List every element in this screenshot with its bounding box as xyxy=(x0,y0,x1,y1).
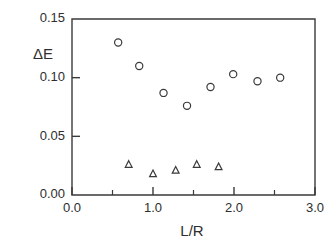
data-point-triangle xyxy=(172,167,179,174)
y-tick-label: 0.05 xyxy=(40,128,65,143)
data-point-circle xyxy=(277,74,284,81)
data-point-circle xyxy=(183,102,190,109)
x-tick-label: 1.0 xyxy=(144,200,162,215)
y-tick-label: 0.00 xyxy=(40,186,65,201)
data-point-triangle xyxy=(215,163,222,170)
y-tick-label: 0.10 xyxy=(40,69,65,84)
data-point-circle xyxy=(230,71,237,78)
y-tick-label: 0.15 xyxy=(40,10,65,25)
series-triangles xyxy=(125,161,222,177)
data-point-circle xyxy=(160,89,167,96)
y-axis-title: ΔE xyxy=(33,45,53,62)
x-tick-label: 0.0 xyxy=(63,200,81,215)
x-axis-title: L/R xyxy=(180,222,204,239)
data-point-triangle xyxy=(193,161,200,168)
plot-axes xyxy=(72,19,315,195)
x-tick-label: 3.0 xyxy=(306,200,324,215)
data-point-circle xyxy=(254,78,261,85)
axis-ticks xyxy=(72,78,315,195)
data-point-circle xyxy=(207,83,214,90)
data-point-triangle xyxy=(150,170,157,177)
scatter-plot: 0.01.02.03.00.000.050.100.15 ΔE L/R xyxy=(0,0,336,243)
figure-container: 0.01.02.03.00.000.050.100.15 ΔE L/R xyxy=(0,0,336,243)
series-circles xyxy=(115,39,284,110)
x-tick-label: 2.0 xyxy=(225,200,243,215)
data-point-circle xyxy=(136,62,143,69)
data-point-triangle xyxy=(125,161,132,168)
data-series xyxy=(115,39,284,177)
data-point-circle xyxy=(115,39,122,46)
plot-frame xyxy=(72,19,315,195)
axis-tick-labels: 0.01.02.03.00.000.050.100.15 xyxy=(40,10,324,215)
